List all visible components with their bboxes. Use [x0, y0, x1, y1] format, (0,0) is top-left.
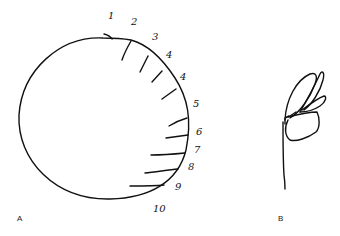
panel-label-a: A: [17, 214, 22, 223]
tick-label-4b: 4: [179, 71, 186, 82]
tick-label-1: 1: [108, 10, 114, 21]
tick-label-8: 8: [188, 161, 194, 172]
tick-label-3: 3: [152, 31, 158, 42]
tick-label-2: 2: [130, 16, 137, 27]
tick-label-4a: 4: [165, 49, 172, 60]
drawing-canvas: 1 2 3 4 4 5 6 7 8 9 10: [0, 0, 340, 236]
tick-label-10: 10: [153, 203, 166, 214]
tick-label-5: 5: [193, 98, 199, 109]
bud-drawing: [283, 72, 326, 189]
tick-label-7: 7: [194, 144, 201, 155]
figure: 1 2 3 4 4 5 6 7 8 9 10 A B: [0, 0, 340, 236]
tick-label-6: 6: [196, 126, 203, 137]
tick-labels: 1 2 3 4 4 5 6 7 8 9 10: [108, 10, 203, 214]
circle-drawing: [19, 34, 189, 199]
tick-label-9: 9: [175, 181, 182, 192]
panel-label-b: B: [278, 214, 283, 223]
